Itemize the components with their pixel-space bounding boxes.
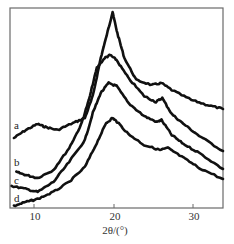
x-tick-label-30: 30 [189, 210, 201, 222]
curve-b [16, 55, 223, 178]
plot-frame [10, 8, 223, 208]
x-axis-label: 2θ/(°) [102, 224, 128, 237]
x-tick-label-10: 10 [30, 210, 42, 222]
series-label-a: a [14, 119, 19, 131]
series-label-c: c [14, 174, 19, 186]
curve-a [14, 12, 223, 138]
xrd-chart: 10 20 30 2θ/(°) a b c d [0, 0, 234, 244]
x-tick-label-20: 20 [110, 210, 122, 222]
series-label-b: b [14, 156, 20, 168]
series-label-d: d [14, 192, 20, 204]
curves-group [12, 12, 223, 206]
